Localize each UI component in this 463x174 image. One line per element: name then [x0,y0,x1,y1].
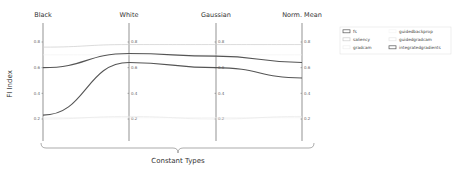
legend-label-guidedbackprop: guidedbackprop [399,29,433,34]
legend-swatch-gradcam [343,46,350,49]
tick-label: 0.8 [218,39,225,44]
axis-title-norm-mean: Norm. Mean [282,11,322,19]
tick-label: 0.6 [34,65,41,70]
tick-label: 0.2 [131,116,138,121]
tick-label: 0.6 [131,65,138,70]
legend: fssaliencygradcamguidedbackpropguidedgra… [340,27,451,54]
axis-title-black: Black [34,11,52,19]
legend-swatch-saliency [343,38,350,41]
legend-label-integratedgradients: integratedgradients [399,45,441,50]
series-lines [43,45,302,119]
legend-swatch-integratedgradients [389,46,396,49]
legend-label-saliency: saliency [353,37,371,42]
tick-label: 0.8 [34,39,41,44]
tick-label: 0.2 [304,116,311,121]
legend-swatch-fs [343,30,350,33]
tick-label: 0.4 [131,91,138,96]
series-line-integratedgradients [43,63,302,116]
axes: Black0.20.40.60.8White0.20.40.60.8Gaussi… [34,11,322,141]
tick-label: 0.4 [218,91,225,96]
legend-label-gradcam: gradcam [353,45,372,50]
tick-label: 0.2 [34,116,41,121]
tick-label: 0.4 [304,91,311,96]
axis-title-white: White [120,11,139,19]
x-axis-label: Constant Types [151,157,205,165]
parallel-coordinates-chart: FI Index Black0.20.40.60.8White0.20.40.6… [0,0,463,174]
axis-title-gaussian: Gaussian [201,11,231,19]
legend-label-guidedgradcam: guidedgradcam [399,37,432,42]
x-axis-brace [41,143,314,153]
legend-swatch-guidedgradcam [389,38,396,41]
tick-label: 0.8 [131,39,138,44]
tick-label: 0.6 [304,65,311,70]
y-axis-label: FI Index [6,70,14,98]
legend-swatch-guidedbackprop [389,30,396,33]
legend-label-fs: fs [353,29,357,34]
series-line-saliency [43,45,302,48]
tick-label: 0.4 [34,91,41,96]
series-line-guidedgradcam [43,116,302,119]
tick-label: 0.8 [304,39,311,44]
